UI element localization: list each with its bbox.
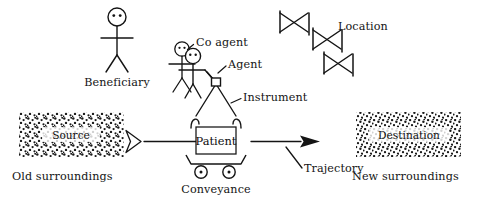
trajectory-leader-line bbox=[286, 147, 302, 168]
beneficiary-label: Beneficiary bbox=[84, 76, 150, 89]
patient-label: Patient bbox=[196, 134, 237, 148]
source-block: Source bbox=[19, 112, 124, 157]
cart-with-wheels-icon bbox=[186, 155, 246, 178]
destination-label: Destination bbox=[378, 129, 440, 141]
location-label: Location bbox=[338, 20, 388, 33]
patient-box: Patient bbox=[196, 127, 237, 154]
conveyance-label: Conveyance bbox=[181, 183, 251, 196]
instrument-leader-line bbox=[231, 99, 241, 104]
instrument-label: Instrument bbox=[243, 91, 308, 104]
trajectory-label: Trajectory bbox=[304, 162, 364, 175]
small-square-hook-icon bbox=[212, 78, 221, 86]
transfer-event-diagram: Source Old surroundings Destination New … bbox=[0, 0, 477, 203]
diagram-canvas: Source Old surroundings Destination New … bbox=[0, 0, 477, 203]
co-agent-label: Co agent bbox=[196, 36, 248, 49]
beneficiary-figure bbox=[101, 8, 133, 72]
agent-leader-line bbox=[218, 66, 226, 73]
source-label: Source bbox=[52, 129, 90, 141]
agent-label: Agent bbox=[227, 58, 262, 71]
destination-block: Destination bbox=[356, 112, 461, 157]
solid-arrowhead-icon bbox=[300, 136, 320, 148]
triangle-sling-icon bbox=[196, 84, 236, 116]
new-surroundings-label: New surroundings bbox=[352, 170, 459, 183]
old-surroundings-label: Old surroundings bbox=[12, 170, 113, 183]
hollow-chevron-arrow-icon bbox=[126, 131, 141, 153]
